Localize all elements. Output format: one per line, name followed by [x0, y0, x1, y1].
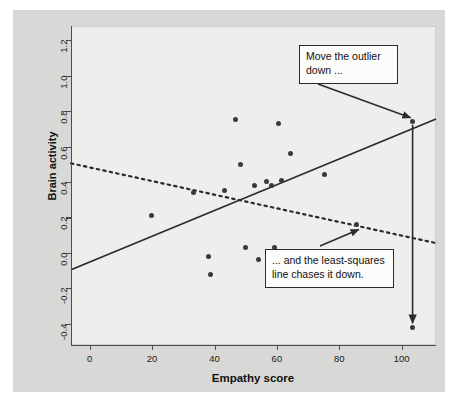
annotation-arrows	[0, 0, 458, 402]
page-margin	[0, 0, 13, 402]
page-margin	[0, 0, 458, 10]
least-squares-arrow	[320, 229, 359, 246]
page-margin	[0, 392, 458, 402]
move-outlier-arrow	[318, 84, 411, 118]
page-margin	[445, 0, 458, 402]
figure-page: Brain activity Empathy score -0.4-0.20.0…	[0, 0, 458, 402]
